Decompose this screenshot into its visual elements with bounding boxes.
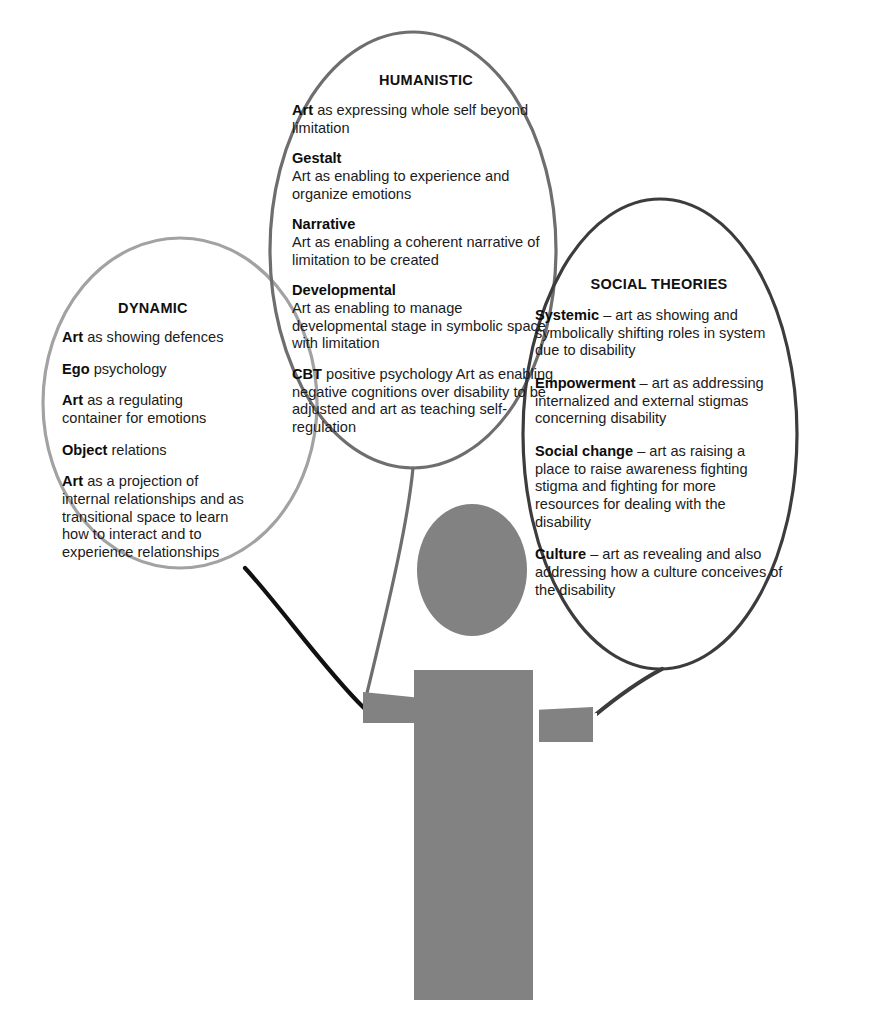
torso-upper [414,670,533,815]
social-entry-4-lead: Culture [535,546,586,562]
dynamic-entry-4-lead: Object [62,442,107,458]
social-to-right-hand-connector [594,669,662,716]
dynamic-entry-5-rest: as a projection of internal relationship… [62,473,244,560]
diagram-canvas: DYNAMIC Art as showing defences Ego psyc… [0,0,869,1034]
humanistic-entry-5-lead: CBT [292,366,322,382]
dynamic-entry-1: Art as showing defences [62,329,244,347]
dynamic-entry-2: Ego psychology [62,361,244,379]
dynamic-entry-5-lead: Art [62,473,83,489]
social-theories-title: SOCIAL THEORIES [535,276,783,292]
humanistic-entry-1: Art as expressing whole self beyond limi… [292,102,560,137]
humanistic-entry-3-rest: Art as enabling a coherent narrative of … [292,234,539,268]
humanistic-entry-1-rest: as expressing whole self beyond limitati… [292,102,528,136]
social-entry-3-lead: Social change [535,443,633,459]
humanistic-entry-1-lead: Art [292,102,313,118]
dynamic-entry-4: Object relations [62,442,244,460]
humanistic-entry-4-lead: Developmental [292,282,396,298]
social-entry-1-lead: Systemic [535,307,599,323]
dynamic-to-left-hand-connector [245,568,364,708]
social-entry-4: Culture – art as revealing and also addr… [535,546,783,599]
humanistic-entry-5: CBT positive psychology Art as enabling … [292,366,560,437]
humanistic-entry-3-lead: Narrative [292,216,355,232]
dynamic-entry-1-rest: as showing defences [83,329,223,345]
dynamic-entry-1-lead: Art [62,329,83,345]
humanistic-entry-2-rest: Art as enabling to experience and organi… [292,168,509,202]
dynamic-entry-5: Art as a projection of internal relation… [62,473,244,561]
social-entry-2: Empowerment – art as addressing internal… [535,375,783,428]
dynamic-bubble: DYNAMIC Art as showing defences Ego psyc… [62,300,244,576]
humanistic-tail-to-left-shoulder-connector [367,468,413,693]
humanistic-bubble: HUMANISTIC Art as expressing whole self … [292,72,560,437]
dynamic-entry-2-rest: psychology [90,361,167,377]
dynamic-entry-3: Art as a regulating container for emotio… [62,392,244,427]
dynamic-entry-3-rest: as a regulating container for emotions [62,392,206,426]
humanistic-entry-4-rest: Art as enabling to manage developmental … [292,300,546,351]
social-entry-1: Systemic – art as showing and symbolical… [535,307,783,360]
dynamic-title: DYNAMIC [62,300,244,316]
humanistic-entry-2: GestaltArt as enabling to experience and… [292,150,560,203]
humanistic-entry-4: DevelopmentalArt as enabling to manage d… [292,282,560,353]
humanistic-entry-3: NarrativeArt as enabling a coherent narr… [292,216,560,269]
head [417,504,533,642]
humanistic-entry-5-rest: positive psychology Art as enabling nega… [292,366,553,435]
dynamic-entry-2-lead: Ego [62,361,90,377]
dynamic-entry-3-lead: Art [62,392,83,408]
social-entry-2-lead: Empowerment [535,375,636,391]
dynamic-entry-4-rest: relations [107,442,166,458]
humanistic-title: HUMANISTIC [292,72,560,88]
social-theories-bubble: SOCIAL THEORIES Systemic – art as showin… [535,276,783,614]
humanistic-entry-2-lead: Gestalt [292,150,341,166]
social-entry-3: Social change – art as raising a place t… [535,443,783,531]
